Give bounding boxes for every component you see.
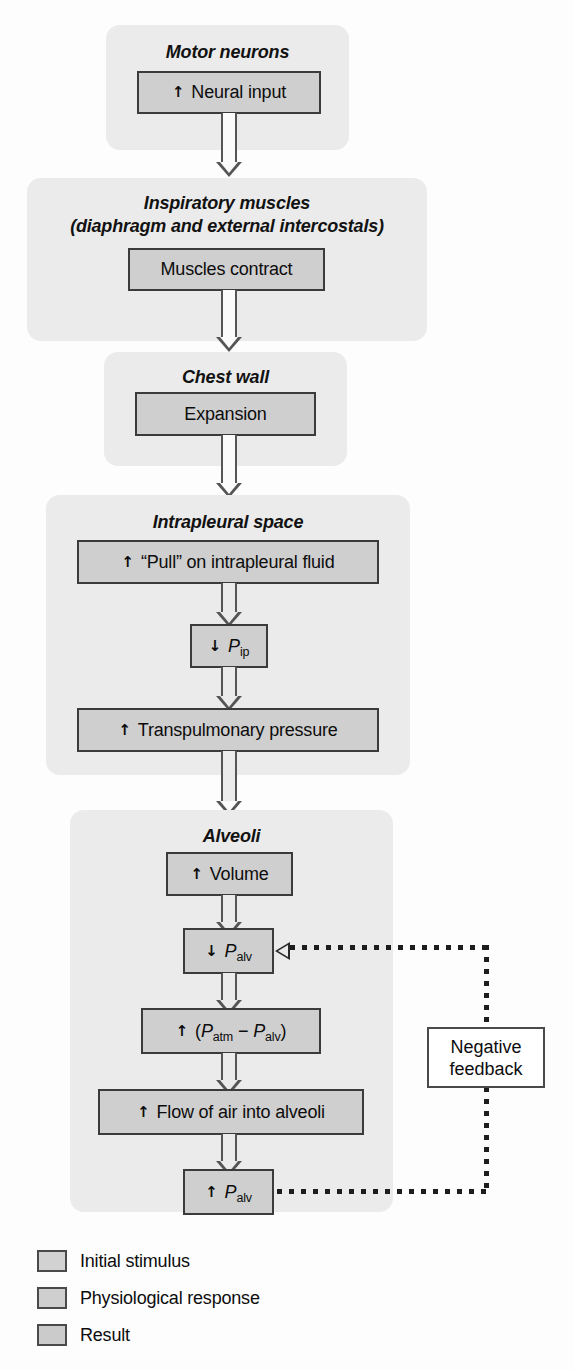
panel-title-inspiratory-muscles-line2: (diaphragm and external intercostals): [27, 215, 427, 238]
legend-item-physiological-response: Physiological response: [37, 1287, 260, 1309]
feedback-line-top: [290, 945, 489, 950]
panel-title-intrapleural-space: Intrapleural space: [46, 511, 410, 534]
negative-feedback-box: Negative feedback: [427, 1027, 545, 1088]
box-pull-intrapleural-fluid: ↑“Pull” on intrapleural fluid: [77, 540, 379, 584]
box-flow-of-air: ↑Flow of air into alveoli: [98, 1089, 364, 1135]
box-pdiff-symbol-alv: P: [253, 1021, 265, 1041]
box-pdiff-symbol-atm: P: [201, 1021, 213, 1041]
connector-pull-to-pip: [216, 583, 242, 627]
up-arrow-icon: ↑: [137, 1103, 149, 1121]
box-p-alv-increase-subscript: alv: [236, 1191, 251, 1205]
flowchart-figure: Motor neurons ↑Neural input Inspiratory …: [0, 0, 573, 1370]
box-flow-label: Flow of air into alveoli: [157, 1102, 325, 1122]
connector-pip-to-transpulmonary: [216, 667, 242, 711]
up-arrow-icon: ↑: [172, 83, 184, 101]
feedback-arrowhead-icon: [275, 942, 290, 960]
connector-neural-to-muscles: [216, 113, 242, 177]
box-pressure-difference: ↑(Patm−Palv): [141, 1008, 321, 1054]
up-arrow-icon: ↑: [122, 553, 134, 571]
legend-swatch-initial-stimulus: [37, 1250, 67, 1272]
box-transpulmonary-label: Transpulmonary pressure: [138, 720, 338, 740]
up-arrow-icon: ↑: [205, 1183, 217, 1201]
connector-muscles-to-chestwall: [216, 290, 242, 352]
box-volume: ↑Volume: [166, 852, 293, 896]
box-volume-label: Volume: [210, 864, 269, 884]
box-p-ip-subscript: ip: [240, 645, 249, 659]
box-p-ip: ↓Pip: [190, 624, 268, 668]
up-arrow-icon: ↑: [176, 1022, 188, 1040]
panel-title-inspiratory-muscles-line1: Inspiratory muscles: [27, 192, 427, 215]
box-expansion-label: Expansion: [184, 404, 266, 425]
down-arrow-icon: ↓: [209, 637, 221, 655]
box-pdiff-minus: −: [233, 1021, 253, 1041]
up-arrow-icon: ↑: [118, 721, 130, 739]
legend-item-result: Result: [37, 1324, 130, 1346]
box-p-alv-decrease-symbol: P: [225, 941, 237, 961]
panel-title-motor-neurons: Motor neurons: [106, 41, 349, 64]
box-expansion: Expansion: [135, 392, 316, 436]
box-p-ip-symbol: P: [228, 636, 240, 656]
box-pdiff-sub-atm: atm: [213, 1030, 233, 1044]
box-p-alv-decrease-subscript: alv: [236, 950, 251, 964]
panel-title-chest-wall: Chest wall: [104, 366, 347, 389]
legend-label-physiological-response: Physiological response: [80, 1288, 260, 1309]
box-p-alv-increase-symbol: P: [225, 1182, 237, 1202]
box-neural-input-label: Neural input: [191, 82, 286, 102]
connector-chestwall-to-intrapleural: [216, 435, 242, 498]
box-transpulmonary-pressure: ↑Transpulmonary pressure: [77, 708, 379, 752]
box-neural-input: ↑Neural input: [137, 71, 321, 114]
box-muscles-contract: Muscles contract: [128, 248, 325, 291]
box-p-alv-decrease: ↓Palv: [183, 928, 274, 974]
box-pull-label: “Pull” on intrapleural fluid: [141, 552, 335, 572]
up-arrow-icon: ↑: [190, 865, 202, 883]
negative-feedback-line1: Negative: [450, 1037, 521, 1057]
down-arrow-icon: ↓: [205, 942, 217, 960]
feedback-line-right-upper: [484, 945, 489, 1029]
box-pdiff-sub-alv: alv: [265, 1030, 280, 1044]
box-pdiff-close: ): [280, 1021, 286, 1041]
legend-label-result: Result: [80, 1325, 130, 1346]
connector-transpulmonary-to-alveoli: [216, 751, 242, 816]
box-p-alv-increase: ↑Palv: [183, 1169, 274, 1215]
negative-feedback-line2: feedback: [449, 1059, 522, 1079]
legend-swatch-physiological-response: [37, 1287, 67, 1309]
legend-label-initial-stimulus: Initial stimulus: [80, 1251, 190, 1272]
feedback-line-bottom: [277, 1189, 489, 1194]
feedback-line-right-lower: [484, 1087, 489, 1191]
legend-item-initial-stimulus: Initial stimulus: [37, 1250, 190, 1272]
panel-title-alveoli: Alveoli: [70, 825, 393, 848]
legend-swatch-result: [37, 1324, 67, 1346]
box-muscles-contract-label: Muscles contract: [161, 259, 293, 280]
